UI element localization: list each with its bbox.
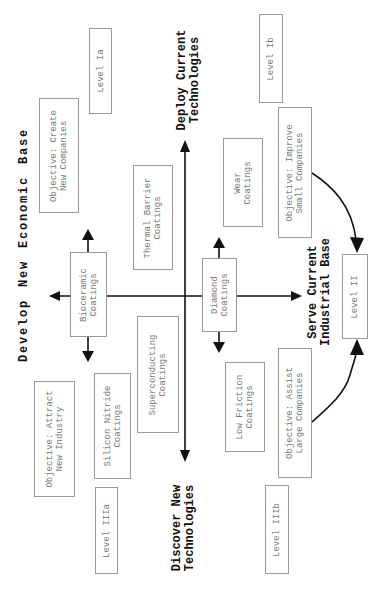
diamond-up-arrowhead-icon <box>213 237 225 248</box>
level-ib-label: Level Ib <box>266 37 276 80</box>
wear-coatings-box: Wear Coatings <box>223 138 263 227</box>
low-friction-line-2: Coatings <box>245 375 255 440</box>
thermal-barrier-line-2: Coatings <box>153 177 163 258</box>
level-ia-box: Level Ia <box>89 28 112 114</box>
thermal-barrier-line-1: Thermal Barrier <box>143 177 153 258</box>
diamond-coatings-box: Diamond Coatings <box>202 258 237 332</box>
wear-line-1: Wear <box>233 161 243 204</box>
axis-label-right: Serve Current Industrial Base <box>307 238 333 346</box>
level-iiib-label: Level IIIb <box>272 502 282 556</box>
silicon-nitride-line-1: Silicon Nitride <box>103 385 113 466</box>
objective-create-line-1: Objective: Create <box>49 110 59 202</box>
level-iiia-box: Level IIIa <box>95 487 118 574</box>
axis-arrow-left-icon <box>49 291 60 301</box>
objective-improve-line-1: Objective: Improve <box>285 124 295 221</box>
bioceramic-down-arrowhead-icon <box>82 351 94 362</box>
bioceramic-line-1: Bioceramic <box>79 267 89 321</box>
objective-assist-line-2: Large Companies <box>295 367 305 459</box>
bioceramic-up-arrowhead-icon <box>82 229 94 240</box>
bioceramic-line-2: Coatings <box>89 267 99 321</box>
axis-label-bottom-line-2: Technologies <box>184 485 197 571</box>
axis-arrow-right-icon <box>291 291 302 301</box>
objective-improve-line-2: Small Companies <box>295 124 305 221</box>
objective-attract-line-2: New Industry <box>55 390 65 487</box>
objective-improve-box: Objective: Improve Small Companies <box>278 107 312 238</box>
diamond-down-arrowhead-icon <box>213 342 225 353</box>
axis-label-top: Deploy Current Technologies <box>176 30 202 131</box>
axis-arrow-up-icon <box>180 140 190 152</box>
level-ii-bottom-arrowhead-icon <box>350 339 364 355</box>
silicon-nitride-box: Silicon Nitride Coatings <box>94 373 131 479</box>
superconducting-box: Superconducting Coatings <box>137 316 179 433</box>
level-ii-label: Level II <box>350 275 360 318</box>
level-ib-box: Level Ib <box>259 14 283 103</box>
silicon-nitride-line-2: Coatings <box>113 385 123 466</box>
objective-assist-line-1: Objective: Assist <box>285 367 295 459</box>
diamond-line-2: Coatings <box>220 273 230 316</box>
low-friction-box: Low Friction Coatings <box>225 362 265 452</box>
improve-to-level-ii-curve <box>312 173 356 240</box>
objective-assist-box: Objective: Assist Large Companies <box>278 348 312 478</box>
axis-label-bottom: Discover New Technologies <box>171 485 197 571</box>
level-ii-top-arrowhead-icon <box>350 237 364 253</box>
coatings-strategy-diagram: Deploy Current Technologies Discover New… <box>0 0 376 603</box>
assist-to-level-ii-curve <box>312 354 356 422</box>
objective-attract-line-1: Objective: Attract <box>45 390 55 487</box>
level-iiia-label: Level IIIa <box>102 503 112 557</box>
axis-label-left-text: Develop New Economic Base <box>18 128 31 362</box>
thermal-barrier-box: Thermal Barrier Coatings <box>133 165 173 270</box>
wear-line-2: Coatings <box>243 161 253 204</box>
level-ia-label: Level Ia <box>96 49 106 92</box>
superconducting-line-2: Coatings <box>158 334 168 415</box>
axis-label-left: Develop New Economic Base <box>18 128 31 362</box>
diamond-line-1: Diamond <box>210 273 220 316</box>
axis-label-top-line-2: Technologies <box>189 30 202 131</box>
low-friction-line-1: Low Friction <box>235 375 245 440</box>
objective-attract-box: Objective: Attract New Industry <box>34 381 75 497</box>
bioceramic-box: Bioceramic Coatings <box>70 252 107 337</box>
objective-create-line-2: New Companies <box>59 110 69 202</box>
axis-arrow-down-icon <box>180 450 190 462</box>
level-ii-box: Level II <box>342 254 368 339</box>
superconducting-line-1: Superconducting <box>148 334 158 415</box>
objective-create-box: Objective: Create New Companies <box>39 98 79 213</box>
axis-label-right-line-2: Industrial Base <box>320 238 333 346</box>
level-iiib-box: Level IIIb <box>265 485 289 574</box>
